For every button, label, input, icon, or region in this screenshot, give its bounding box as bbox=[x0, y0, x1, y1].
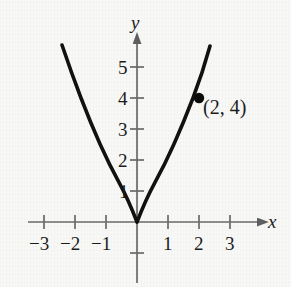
x-axis-label: x bbox=[268, 212, 276, 231]
y-tick-label-1: 1 bbox=[119, 182, 129, 201]
x-tick-label-1: 1 bbox=[163, 234, 173, 253]
point-annotation-label: (2, 4) bbox=[203, 97, 246, 117]
y-axis-label: y bbox=[131, 13, 139, 32]
y-tick-label-2: 2 bbox=[118, 151, 128, 170]
parabola-curve bbox=[62, 45, 210, 222]
x-tick-label-neg2: −2 bbox=[60, 234, 80, 253]
x-tick-label-2: 2 bbox=[194, 234, 204, 253]
y-tick-label-5: 5 bbox=[118, 58, 128, 77]
x-tick-label-neg3: −3 bbox=[29, 234, 49, 253]
y-tick-label-3: 3 bbox=[118, 120, 128, 139]
x-tick-label-3: 3 bbox=[225, 234, 235, 253]
parabola-figure: 5 4 3 2 1 −3 −2 −1 1 2 3 y x (2, 4) bbox=[0, 0, 291, 287]
y-tick-label-4: 4 bbox=[118, 89, 128, 108]
x-tick-label-neg1: −1 bbox=[91, 234, 111, 253]
